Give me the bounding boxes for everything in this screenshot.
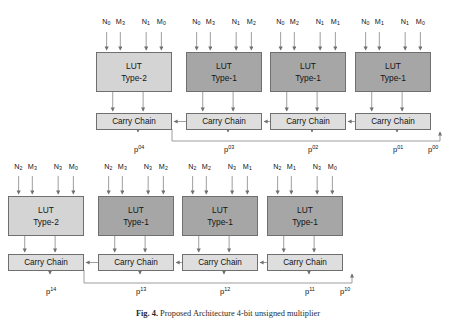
lut-label-name: LUT [385,60,401,72]
lut-block-type-2: LUTType-2 [8,196,84,236]
input-signal: M3 [28,163,37,170]
caption-text: Proposed Architecture 4-bit unsigned mul… [160,309,320,318]
input-signal: M3 [116,18,125,25]
input-signal: N0 [276,18,284,25]
input-signal: N0 [361,18,369,25]
lut-label-name: LUT [216,60,232,72]
output-label: p04 [134,146,144,154]
input-signal: M0 [328,163,337,170]
lut-label-type: Type-1 [380,72,406,84]
carry-chain-block: Carry Chain [8,254,84,271]
carry-chain-block: Carry Chain [267,254,343,271]
output-label: p00 [428,146,438,154]
lut-label-type: Type-2 [33,216,59,228]
lut-label-type: Type-1 [207,216,233,228]
input-signal: N2 [188,163,196,170]
lut-block-type-1: LUTType-1 [267,196,343,236]
input-signal: M0 [157,18,166,25]
input-signal: M2 [290,18,299,25]
carry-chain-label: Carry Chain [371,117,415,126]
input-signal: N1 [316,18,324,25]
output-label: p12 [220,288,230,296]
input-signal: N0 [192,18,200,25]
input-signal: M1 [287,163,296,170]
input-signal: M2 [202,163,211,170]
lut-block-type-1: LUTType-1 [186,52,262,92]
input-signal: N1 [232,18,240,25]
input-signal: M3 [118,163,127,170]
lut-label-name: LUT [38,204,54,216]
carry-chain-label: Carry Chain [24,258,68,267]
input-signal: M1 [331,18,340,25]
input-signal: N1 [401,18,409,25]
carry-chain-label: Carry Chain [283,258,327,267]
lut-label-type: Type-1 [292,216,318,228]
output-label: p13 [136,288,146,296]
input-signal: N3 [54,163,62,170]
input-signal: M2 [247,18,256,25]
lut-label-name: LUT [126,60,142,72]
output-label: p14 [46,288,56,296]
input-signal: M1 [243,163,252,170]
input-signal: M2 [159,163,168,170]
input-signal: N1 [142,18,150,25]
input-signal: M0 [416,18,425,25]
lut-label-name: LUT [297,204,313,216]
carry-chain-label: Carry Chain [114,258,158,267]
carry-chain-block: Carry Chain [182,254,258,271]
input-signal: N3 [144,163,152,170]
output-label: p03 [224,146,234,154]
input-signal: N2 [14,163,22,170]
carry-chain-label: Carry Chain [198,258,242,267]
carry-chain-label: Carry Chain [286,117,330,126]
carry-chain-block: Carry Chain [186,113,262,130]
output-label: p11 [305,288,315,296]
input-signal: N3 [228,163,236,170]
lut-label-name: LUT [300,60,316,72]
input-signal: N2 [273,163,281,170]
lut-block-type-1: LUTType-1 [182,196,258,236]
lut-label-name: LUT [128,204,144,216]
input-signal: M1 [375,18,384,25]
output-label: p02 [308,146,318,154]
lut-block-type-1: LUTType-1 [98,196,174,236]
input-signal: N2 [104,163,112,170]
carry-chain-label: Carry Chain [112,117,156,126]
lut-label-name: LUT [212,204,228,216]
lut-label-type: Type-1 [295,72,321,84]
lut-label-type: Type-2 [121,72,147,84]
carry-chain-block: Carry Chain [98,254,174,271]
output-label: p01 [393,146,403,154]
lut-block-type-2: LUTType-2 [96,52,172,92]
figure-caption: Fig. 4. Proposed Architecture 4-bit unsi… [0,309,456,318]
carry-chain-label: Carry Chain [202,117,246,126]
lut-label-type: Type-1 [211,72,237,84]
output-label: p10 [340,288,350,296]
input-signal: N0 [102,18,110,25]
input-signal: N3 [313,163,321,170]
lut-block-type-1: LUTType-1 [355,52,431,92]
carry-chain-block: Carry Chain [355,113,431,130]
carry-chain-block: Carry Chain [96,113,172,130]
caption-label: Fig. 4. [136,309,158,318]
input-signal: M0 [69,163,78,170]
lut-block-type-1: LUTType-1 [270,52,346,92]
carry-chain-block: Carry Chain [270,113,346,130]
lut-label-type: Type-1 [123,216,149,228]
input-signal: M3 [206,18,215,25]
